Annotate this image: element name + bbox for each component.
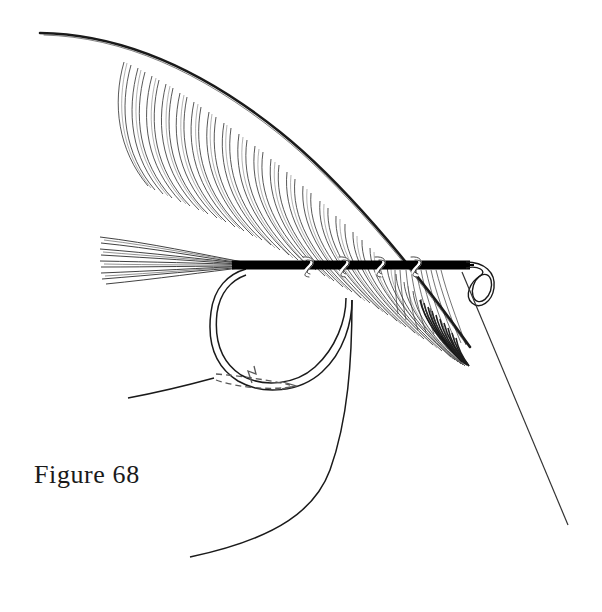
- figure-drawing-canvas: [0, 0, 602, 612]
- figure-illustration: Figure 68: [0, 0, 602, 612]
- figure-background: [0, 0, 602, 612]
- figure-caption: Figure 68: [34, 462, 140, 488]
